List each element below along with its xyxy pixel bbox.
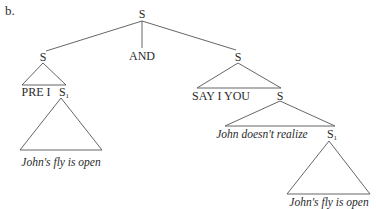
node-right-s1: S1 [327,128,337,144]
inner-s-triangle [225,101,335,126]
node-john-doesnt-realize: John doesn't realize [216,128,307,140]
left-s-triangle [22,63,66,85]
node-left-s: S [40,51,47,63]
right-s1-roof [287,141,370,194]
node-and: AND [129,50,155,62]
node-root: S [139,8,146,20]
right-s1-yield: John's fly is open [289,196,368,208]
left-s1-yield: John's fly is open [21,156,100,168]
figure-label: b. [5,5,15,17]
node-right-s: S [235,51,242,63]
right-s-triangle [197,63,281,88]
node-say-i-you: SAY I YOU [192,90,250,102]
node-pre-i: PRE I [21,86,50,98]
node-inner-s: S [277,90,284,102]
edge-root-left [46,21,142,51]
syntax-tree-lines [0,0,376,209]
node-left-s1: S1 [59,86,69,102]
edge-root-right [142,21,236,50]
left-s1-roof [20,98,102,150]
